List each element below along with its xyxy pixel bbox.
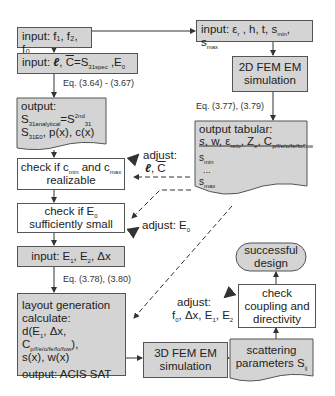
input-spec-box: input: ℓ, C=S31spec ,E0: [17, 53, 138, 74]
title: output:: [21, 100, 94, 113]
length-symbol: ℓ: [53, 56, 59, 68]
t: input: E: [31, 250, 70, 262]
line2: realizable: [46, 174, 95, 187]
line1: successful: [244, 244, 298, 257]
line4: s(x), w(x): [22, 351, 121, 364]
line1: check if E0: [44, 205, 97, 218]
check-coupling-box: check coupling and directivity: [238, 284, 316, 328]
line2: simulation: [244, 74, 296, 87]
sub: max: [207, 44, 218, 50]
layout-generation-box: layout generation calculate: d(E1, Δx, C…: [17, 293, 126, 376]
successful-design-terminal: successful design: [236, 243, 306, 271]
t: parameters S: [236, 357, 305, 369]
output-tabular-text: output tabular: s, w, εre/o, Ze, Cp/f/e/…: [199, 123, 313, 188]
output-analytical-text: output: S31analytical=S2nd31 S31E0, p(x)…: [21, 100, 94, 139]
t: adjust:: [143, 149, 177, 162]
fem-2d-box: 2D FEM EM simulation: [232, 56, 308, 92]
line5: output: ACIS SAT: [22, 368, 121, 381]
s: S: [21, 126, 29, 138]
t: ),: [71, 338, 78, 350]
equation-label-377: Eq. (3.77), (3.79): [196, 101, 264, 111]
line1: layout generation: [22, 299, 121, 312]
line1: check if cmin and cmax: [21, 161, 121, 174]
line1: S31analytical=S2nd31: [21, 113, 94, 126]
title: output tabular:: [199, 123, 313, 135]
line2: coupling and: [244, 300, 309, 313]
t: check if E: [44, 205, 94, 217]
sub: 31E0: [29, 134, 43, 140]
s: S: [21, 113, 29, 125]
line2: parameters Sij: [236, 357, 308, 370]
tail: ,E: [108, 56, 122, 68]
sub: 0: [187, 227, 190, 233]
line2: S31E0, p(x), c(x): [21, 126, 94, 139]
t: ℓ: [145, 162, 151, 174]
line1: check: [262, 287, 292, 300]
t: , E: [74, 250, 88, 262]
check-e0-box: check if E0 sufficiently small: [17, 203, 125, 233]
t: and c: [78, 161, 109, 173]
t: , Z: [241, 135, 254, 147]
label: input:: [22, 30, 53, 42]
line2: sufficiently small: [29, 218, 113, 231]
symbols: ℓ, C: [143, 162, 177, 175]
input-e-box: input: E1, E2, Δx: [17, 246, 125, 267]
t: , Δx: [91, 250, 111, 262]
eq: =S: [60, 113, 74, 125]
t: C: [157, 162, 165, 174]
line2: simulation: [160, 360, 212, 373]
equation-label-378: Eq. (3.78), (3.80): [63, 274, 131, 284]
line: input: E1, E2, Δx: [31, 250, 111, 263]
scattering-parameters-text: scattering parameters Sij: [230, 341, 313, 373]
sub: p/f/e/o/fe/fo/fow: [272, 143, 313, 149]
input-frequencies-box: input: f₁, f₂, f₀: [17, 27, 92, 48]
coupling-symbol: C: [66, 56, 74, 68]
rest: , p(x), c(x): [43, 126, 95, 138]
t: , C: [257, 135, 272, 147]
sub: 0: [122, 64, 125, 70]
fem-3d-box: 3D FEM EM simulation: [143, 342, 228, 378]
line1: scattering: [247, 344, 297, 357]
t: d(E: [22, 325, 40, 337]
label: input:: [22, 56, 53, 68]
t: , h, t, s: [239, 23, 277, 35]
t: , Δx, E: [179, 309, 213, 321]
sub: 2: [230, 317, 233, 323]
sub: re/o: [230, 143, 240, 149]
header-row: s, w, εre/o, Ze, Cp/f/e/o/fe/fo/fow: [199, 135, 313, 147]
line1: 2D FEM EM: [239, 61, 302, 74]
sub: max: [110, 169, 121, 175]
params: f0, Δx, E1, E2: [172, 309, 233, 322]
line2: calculate:: [22, 312, 121, 325]
line3: directivity: [253, 313, 301, 326]
eq: =S: [74, 56, 88, 68]
t: , w, ε: [205, 135, 231, 147]
sub: ij: [305, 365, 308, 371]
t: input: ε: [201, 23, 237, 35]
sup: 2nd: [75, 113, 85, 119]
line1: 3D FEM EM: [154, 347, 217, 360]
line2: design: [254, 257, 288, 270]
adjust-final-label: adjust: f0, Δx, E1, E2: [172, 296, 233, 322]
adjust-e0-label: adjust: E0: [142, 219, 190, 232]
line3: d(E1, Δx, Cp/f/e/o/fe/fo/fow),: [22, 325, 121, 351]
t: adjust:: [172, 296, 233, 309]
sub: max: [204, 183, 215, 189]
t: , E: [216, 309, 230, 321]
row-max: smax: [199, 176, 313, 188]
sub: 31spec: [88, 64, 107, 70]
equation-label-364: Eq. (3.64) - (3.67): [63, 78, 134, 88]
check-c-realizable-box: check if cmin and cmax realizable: [17, 158, 125, 190]
sub: min: [277, 31, 287, 37]
ellipsis: ...: [199, 164, 313, 176]
adjust-l-c-label: adjust: ℓ, C: [143, 149, 177, 175]
t: check if c: [21, 161, 69, 173]
t: adjust: E: [142, 219, 187, 231]
row-min: smin: [199, 152, 313, 164]
input-substrate-box: input: εr , h, t, smin, smax: [196, 20, 313, 42]
